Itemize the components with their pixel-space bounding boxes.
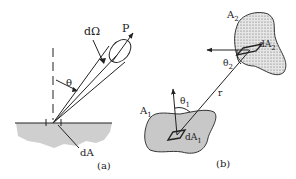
- panel-b: A2 dA2 θ2 r θ1 A1 dA1 (b): [139, 9, 286, 169]
- caption-b: (b): [216, 158, 230, 169]
- label-direction: P: [122, 22, 130, 35]
- label-distance: r: [218, 88, 223, 98]
- direction-arrow: [112, 33, 133, 62]
- surface-region: [16, 123, 112, 148]
- label-angle: θ: [66, 77, 72, 88]
- label-a1: A1: [139, 105, 152, 119]
- label-a2: A2: [226, 9, 239, 23]
- label-theta1: θ1: [180, 96, 190, 109]
- label-solid-angle: dΩ: [84, 25, 100, 38]
- label-area: dA: [80, 147, 94, 158]
- label-theta2: θ2: [223, 58, 233, 71]
- panel-a: dΩ P θ dA (a): [15, 22, 135, 171]
- radiation-geometry-diagram: dΩ P θ dA (a) A2 dA2 θ2 r: [0, 0, 296, 179]
- cone-edge-2: [53, 62, 125, 123]
- cone-edge-3: [53, 55, 117, 123]
- caption-a: (a): [97, 160, 111, 171]
